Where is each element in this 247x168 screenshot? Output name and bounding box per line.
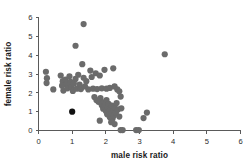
x-tick-label: 6 [238,137,242,146]
data-point [136,127,142,133]
x-tick-label: 0 [36,137,40,146]
data-point [87,68,93,74]
data-point [114,100,120,106]
y-tick-label: 6 [28,13,32,22]
data-point [69,109,75,115]
x-tick-label: 1 [70,137,74,146]
data-point [110,65,116,71]
y-tick-label: 4 [28,51,32,60]
data-point [120,127,126,133]
data-point [116,88,122,94]
data-point [101,67,107,73]
data-point [43,69,49,75]
y-axis-label: female risk ratio [4,42,13,107]
y-tick-label: 2 [28,89,32,98]
y-tick-label: 0 [28,126,32,135]
x-tick-label: 3 [137,137,141,146]
data-point [118,105,124,111]
data-point [50,86,56,92]
data-point [83,78,89,84]
data-point [111,121,117,127]
data-point [162,51,168,57]
data-point [58,72,64,78]
x-tick-label: 2 [104,137,108,146]
data-point [144,110,150,116]
y-tick-label: 5 [28,32,32,41]
data-point [43,80,49,86]
x-tick-label: 4 [171,137,175,146]
y-tick-label: 3 [28,70,32,79]
data-point [97,118,103,124]
plot-area: 0123456 0123456 male risk ratio female r… [0,0,247,168]
data-point [118,94,124,100]
data-point [97,72,103,78]
x-tick-label: 5 [205,137,209,146]
data-point [79,61,85,67]
data-point [116,113,122,119]
data-points-layer [43,21,168,133]
data-point [66,73,72,79]
data-point [81,21,87,27]
scatter-chart: 0123456 0123456 male risk ratio female r… [0,0,247,168]
data-point [75,72,81,78]
x-axis-label: male risk ratio [111,151,168,160]
y-tick-label: 1 [28,107,32,116]
y-axis-ticks: 0123456 [28,13,38,135]
data-point [72,43,78,49]
data-point [140,115,146,121]
